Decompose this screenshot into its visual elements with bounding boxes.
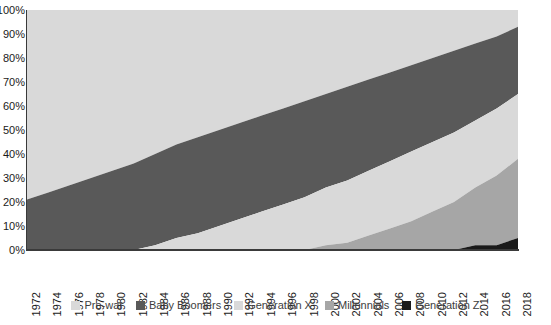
legend: Pre-warBaby BoomersGeneration XMillennia… <box>0 297 551 313</box>
legend-item[interactable]: Generation X <box>234 300 312 311</box>
legend-swatch-icon <box>234 301 243 310</box>
y-axis-tick-label: 100% <box>0 5 25 16</box>
legend-label: Generation X <box>247 300 312 311</box>
legend-swatch-icon <box>402 301 411 310</box>
y-axis-tick-label: 90% <box>3 29 25 40</box>
y-axis: 0%10%20%30%40%50%60%70%80%90%100% <box>0 0 27 260</box>
legend-label: Baby Boomers <box>149 300 221 311</box>
x-axis-line <box>26 249 519 251</box>
y-axis-tick-label: 10% <box>3 221 25 232</box>
y-axis-tick-label: 50% <box>3 125 25 136</box>
legend-swatch-icon <box>136 301 145 310</box>
y-axis-tick-label: 60% <box>3 101 25 112</box>
y-axis-tick-label: 30% <box>3 173 25 184</box>
legend-swatch-icon <box>325 301 334 310</box>
legend-label: Pre-war <box>84 300 123 311</box>
y-axis-tick-label: 20% <box>3 197 25 208</box>
legend-label: Millennials <box>338 300 389 311</box>
y-axis-tick-label: 40% <box>3 149 25 160</box>
stacked-area-chart: 0%10%20%30%40%50%60%70%80%90%100% 197219… <box>0 0 551 325</box>
legend-item[interactable]: Pre-war <box>71 300 123 311</box>
plot-area <box>27 10 518 250</box>
area-series-group <box>27 10 518 250</box>
legend-item[interactable]: Millennials <box>325 300 389 311</box>
y-axis-tick-label: 80% <box>3 53 25 64</box>
x-axis: 1972197419761978198019821984198619881990… <box>0 252 551 294</box>
legend-item[interactable]: Baby Boomers <box>136 300 221 311</box>
y-axis-tick-label: 70% <box>3 77 25 88</box>
legend-swatch-icon <box>71 301 80 310</box>
legend-item[interactable]: Generation Z <box>402 300 479 311</box>
legend-label: Generation Z <box>415 300 479 311</box>
